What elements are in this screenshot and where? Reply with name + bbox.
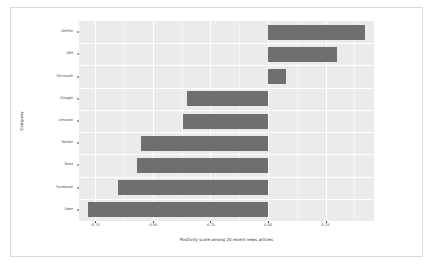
bar — [137, 158, 268, 173]
bar — [118, 180, 268, 195]
y-axis-tick-label: Microsoft — [57, 75, 73, 79]
y-axis-tick-label: Twitter — [61, 141, 73, 145]
gridline-horizontal — [79, 43, 374, 44]
x-axis-tick-label: -0.75 — [90, 224, 99, 228]
y-axis-tick-label: Google — [60, 97, 73, 101]
y-axis-tick-label: Uber — [64, 208, 73, 212]
gridline-horizontal — [79, 132, 374, 133]
y-axis-tick-label: Tesla — [64, 164, 73, 168]
x-axis-title: Positivity score among 20 recent news ar… — [79, 238, 374, 242]
x-axis-tick-label: -0.25 — [206, 224, 215, 228]
bar — [187, 91, 268, 106]
x-axis-tick-label: 0.00 — [264, 224, 272, 228]
gridline-horizontal — [79, 65, 374, 66]
y-axis-tick-mark — [77, 76, 79, 77]
bar — [183, 114, 268, 129]
y-axis-tick-label: Facebook — [56, 186, 73, 190]
y-axis-tick-mark — [77, 54, 79, 55]
bar — [141, 136, 268, 151]
y-axis-tick-mark — [77, 165, 79, 166]
x-axis-tick-label: -0.50 — [148, 224, 157, 228]
gridline-horizontal — [79, 110, 374, 111]
y-axis-tick-label: Amazon — [58, 119, 73, 123]
gridline-horizontal — [79, 154, 374, 155]
y-axis-tick-mark — [77, 32, 79, 33]
y-axis-tick-mark — [77, 121, 79, 122]
y-axis-title: Company — [20, 111, 24, 130]
gridline-minor — [354, 21, 355, 221]
gridline-horizontal — [79, 199, 374, 200]
x-axis-tick-label: 0.25 — [322, 224, 330, 228]
y-axis-tick-mark — [77, 143, 79, 144]
y-axis-tick-label: IBM — [66, 53, 73, 57]
plot-panel — [79, 21, 374, 221]
y-axis-tick-mark — [77, 98, 79, 99]
bar — [88, 202, 268, 217]
y-axis-tick-mark — [77, 209, 79, 210]
bar — [268, 69, 286, 84]
bar — [268, 25, 365, 40]
gridline-horizontal — [79, 177, 374, 178]
y-axis-tick-label: Netflix — [61, 30, 73, 34]
chart-figure: NetflixIBMMicrosoftGoogleAmazonTwitterTe… — [0, 0, 433, 264]
gridline-horizontal — [79, 88, 374, 89]
bar — [268, 47, 337, 62]
gridline-major — [95, 21, 96, 221]
y-axis-tick-mark — [77, 187, 79, 188]
